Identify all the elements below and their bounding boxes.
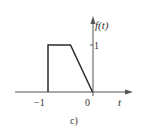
t-axis-arrow-icon — [125, 90, 133, 95]
figure-caption: c) — [70, 115, 78, 127]
y-tick-label-1: 1 — [94, 40, 99, 51]
signal-curve — [48, 45, 93, 92]
signal-plot: f(t) 1 −1 0 t c) — [0, 0, 146, 136]
y-axis-label: f(t) — [95, 19, 109, 32]
x-axis-label: t — [118, 96, 122, 108]
x-tick-label-neg1: −1 — [34, 97, 45, 108]
x-tick-label-0: 0 — [85, 97, 90, 108]
